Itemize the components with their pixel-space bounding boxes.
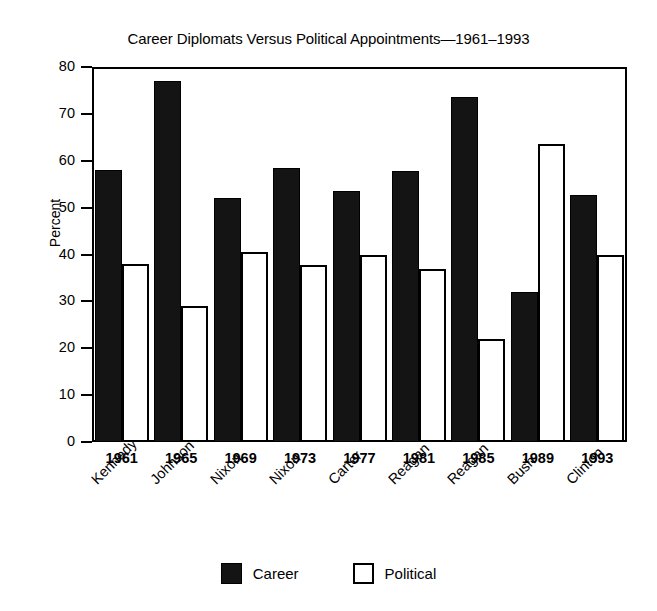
- y-axis-tick-mark: [81, 160, 92, 162]
- legend-label: Political: [385, 565, 437, 582]
- bar-political-1961: [122, 264, 149, 442]
- bar-career-1981: [392, 171, 419, 442]
- page-title: Career Diplomats Versus Political Appoin…: [0, 30, 657, 47]
- y-axis-label: Percent: [47, 163, 63, 283]
- bar-political-1977: [360, 255, 387, 442]
- legend-entry-political: Political: [353, 563, 437, 584]
- legend-swatch-political: [353, 563, 374, 584]
- x-axis-president-label: Nixon: [266, 450, 304, 488]
- y-axis-tick-mark: [81, 66, 92, 68]
- y-axis-tick-label: 0: [67, 433, 75, 449]
- y-axis-tick-label: 60: [59, 152, 75, 168]
- bar-career-1973: [273, 168, 300, 442]
- y-axis-tick-label: 30: [59, 292, 75, 308]
- y-axis-tick-mark: [81, 300, 92, 302]
- bar-career-1989: [511, 292, 538, 442]
- bar-chart-figure: Career Diplomats Versus Political Appoin…: [0, 0, 657, 611]
- y-axis-tick-label: 70: [59, 105, 75, 121]
- y-axis-tick-label: 40: [59, 246, 75, 262]
- y-axis-tick-label: 10: [59, 386, 75, 402]
- bars-layer: [92, 67, 627, 442]
- bar-political-1981: [419, 269, 446, 442]
- bar-career-1985: [451, 97, 478, 442]
- legend-entry-career: Career: [221, 563, 299, 584]
- bar-political-1993: [597, 255, 624, 443]
- y-axis-tick-label: 50: [59, 199, 75, 215]
- chart-legend: CareerPolitical: [0, 563, 657, 584]
- y-axis-tick-mark: [81, 347, 92, 349]
- bar-career-1969: [214, 198, 241, 442]
- y-axis-tick-mark: [81, 254, 92, 256]
- y-axis-tick-mark: [81, 113, 92, 115]
- y-axis-tick-mark: [81, 441, 92, 443]
- bar-political-1965: [181, 306, 208, 442]
- bar-career-1977: [333, 191, 360, 442]
- legend-label: Career: [253, 565, 299, 582]
- bar-political-1973: [300, 265, 327, 442]
- y-axis-tick-label: 80: [59, 58, 75, 74]
- y-axis-tick-mark: [81, 394, 92, 396]
- bar-career-1961: [95, 170, 122, 442]
- bar-political-1969: [241, 252, 268, 442]
- y-axis-tick-mark: [81, 207, 92, 209]
- x-axis-president-label: Bush: [504, 453, 539, 488]
- y-axis-tick-label: 20: [59, 339, 75, 355]
- legend-swatch-career: [221, 563, 242, 584]
- bar-political-1989: [538, 144, 565, 442]
- bar-career-1965: [154, 81, 181, 442]
- bar-career-1993: [570, 195, 597, 442]
- bar-political-1985: [478, 339, 505, 442]
